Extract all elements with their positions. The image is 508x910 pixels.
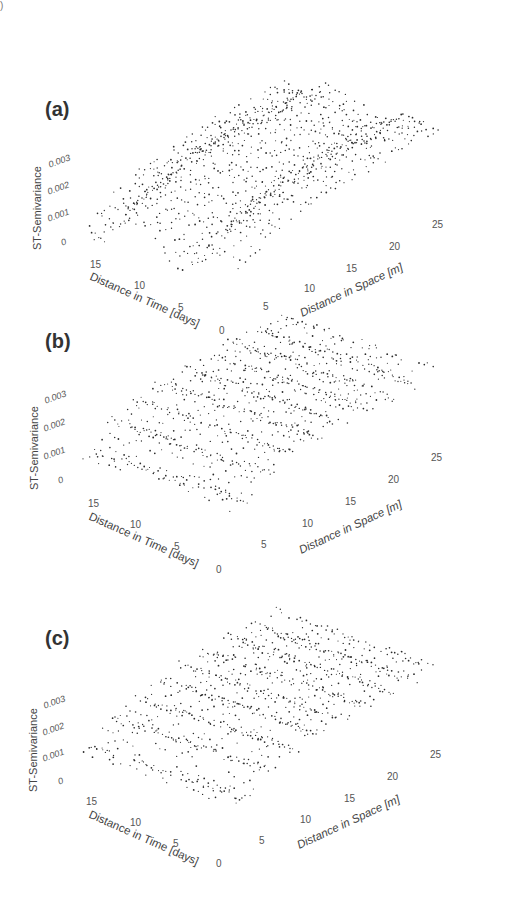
panel-label: (c)	[45, 627, 69, 650]
time-tick: 15	[88, 498, 99, 509]
space-tick: 20	[387, 771, 398, 782]
time-tick: 0	[216, 858, 222, 869]
space-tick: 20	[389, 241, 400, 252]
space-tick: 25	[430, 749, 441, 760]
space-tick: 25	[432, 219, 443, 230]
chart-panel-c: (c) ST-Semivariance 0.003 0.002 0.001 0 …	[0, 572, 508, 872]
space-tick: 15	[344, 793, 355, 804]
z-axis-label: ST-Semivariance	[28, 406, 40, 490]
space-tick: 10	[302, 518, 313, 529]
panel-label: (b)	[45, 330, 71, 353]
space-tick: 20	[388, 474, 399, 485]
space-tick: 10	[300, 814, 311, 825]
space-tick: 15	[346, 263, 357, 274]
chart-panel-b: (b) ST-Semivariance 0.003 0.002 0.001 0 …	[0, 292, 508, 592]
time-tick: 15	[86, 796, 97, 807]
space-tick: 5	[261, 539, 267, 550]
time-tick: 15	[90, 259, 101, 270]
space-tick: 15	[345, 496, 356, 507]
z-axis-label: ST-Semivariance	[31, 166, 43, 250]
z-axis-label: ST-Semivariance	[27, 708, 39, 792]
chart-panel-a: (a) ST-Semivariance 0.003 0.002 0.001 0 …	[0, 0, 508, 300]
space-tick: 5	[259, 835, 265, 846]
scatter-plot-c	[0, 572, 508, 902]
panel-label: (a)	[45, 98, 69, 121]
space-tick: 25	[431, 452, 442, 463]
scatter-plot-a	[0, 0, 508, 320]
